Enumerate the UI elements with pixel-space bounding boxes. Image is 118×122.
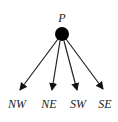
- root-label: P: [57, 11, 66, 25]
- edge-ne: [52, 41, 60, 90]
- root-node: [55, 27, 69, 41]
- diagram-svg: P NW NE SW SE: [0, 0, 118, 122]
- edge-sw: [64, 41, 77, 90]
- quadtree-diagram: P NW NE SW SE: [0, 0, 118, 122]
- edge-nw: [20, 39, 58, 90]
- child-label-nw: NW: [7, 97, 27, 111]
- child-label-ne: NE: [40, 97, 57, 111]
- edge-se: [66, 39, 103, 89]
- child-label-se: SE: [98, 97, 112, 111]
- child-label-sw: SW: [70, 97, 87, 111]
- edges: [20, 39, 103, 90]
